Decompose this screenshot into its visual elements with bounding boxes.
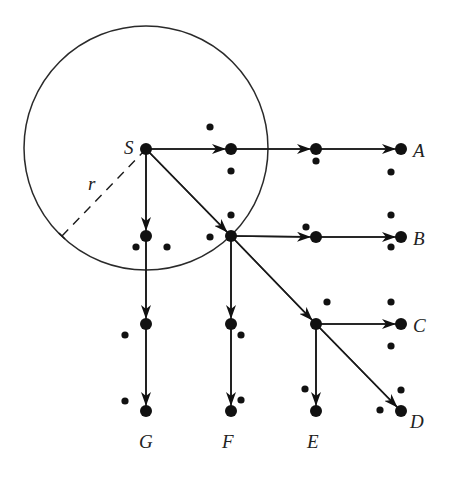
node-intermediate xyxy=(225,318,237,330)
node-label-S: S xyxy=(124,137,134,158)
node-G xyxy=(140,405,152,417)
arrowhead-icon xyxy=(231,236,311,319)
node-intermediate xyxy=(140,230,152,242)
search-graph-diagram: r SABCDGFE xyxy=(0,0,450,480)
unexplored-dot xyxy=(132,243,139,250)
node-label-A: A xyxy=(411,140,425,161)
node-label-D: D xyxy=(409,411,424,432)
node-A xyxy=(395,143,407,155)
unexplored-dot xyxy=(121,397,128,404)
unexplored-dot xyxy=(387,211,394,218)
unexplored-dot xyxy=(387,243,394,250)
unexplored-dot xyxy=(301,385,308,392)
unexplored-dot xyxy=(237,331,244,338)
node-intermediate xyxy=(140,318,152,330)
unexplored-dot xyxy=(387,342,394,349)
node-S xyxy=(140,143,152,155)
unexplored-dot xyxy=(397,386,404,393)
node-D xyxy=(395,405,407,417)
radius-dashed-line xyxy=(62,149,146,236)
unexplored-dot xyxy=(227,211,234,218)
unexplored-dot xyxy=(387,168,394,175)
node-E xyxy=(310,405,322,417)
unexplored-dot xyxy=(206,123,213,130)
node-C xyxy=(395,318,407,330)
node-label-C: C xyxy=(413,315,426,336)
node-intermediate xyxy=(310,231,322,243)
node-B xyxy=(395,231,407,243)
unexplored-dot xyxy=(237,396,244,403)
node-label-F: F xyxy=(221,431,234,452)
unexplored-dot xyxy=(206,233,213,240)
node-label-E: E xyxy=(306,431,319,452)
unexplored-dot xyxy=(387,298,394,305)
unexplored-dot xyxy=(227,167,234,174)
node-intermediate xyxy=(310,318,322,330)
arrowhead-icon xyxy=(316,324,396,406)
edges-layer xyxy=(146,149,401,411)
unexplored-dot xyxy=(323,298,330,305)
arrowhead-icon xyxy=(231,236,309,237)
node-label-B: B xyxy=(413,228,425,249)
node-intermediate xyxy=(225,230,237,242)
labels-layer: r SABCDGFE xyxy=(88,137,426,452)
node-intermediate xyxy=(310,143,322,155)
node-intermediate xyxy=(225,143,237,155)
unexplored-dot xyxy=(376,406,383,413)
unexplored-dot xyxy=(121,331,128,338)
radius-line xyxy=(59,149,146,239)
node-label-G: G xyxy=(139,431,153,452)
node-F xyxy=(225,405,237,417)
unexplored-dot xyxy=(302,223,309,230)
arrowhead-icon xyxy=(146,149,226,231)
unexplored-dot xyxy=(312,157,319,164)
unexplored-dot xyxy=(163,243,170,250)
radius-label: r xyxy=(88,173,96,194)
